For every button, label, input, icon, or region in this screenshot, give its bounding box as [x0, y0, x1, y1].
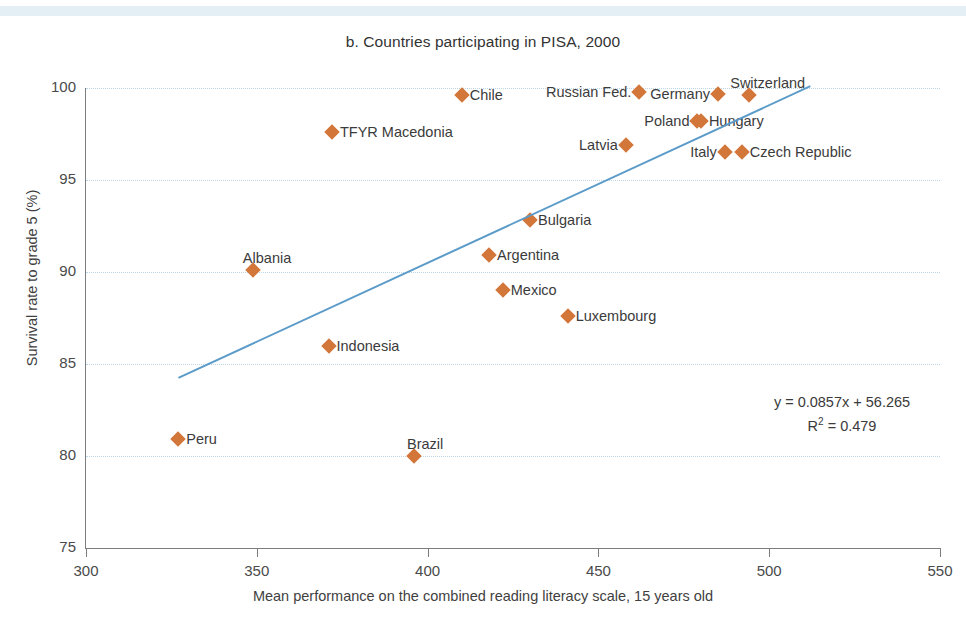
- gridline: [86, 364, 940, 365]
- gridline: [86, 88, 940, 89]
- x-tick-label: 550: [910, 562, 966, 579]
- data-point: [717, 145, 733, 161]
- y-tick-label: 75: [30, 538, 76, 555]
- data-point-label: Italy: [690, 145, 717, 160]
- data-point: [618, 137, 634, 153]
- data-point: [324, 124, 340, 140]
- gridline: [86, 272, 940, 273]
- x-axis-label: Mean performance on the combined reading…: [0, 588, 966, 604]
- data-point: [454, 88, 470, 104]
- x-tick-label: 450: [568, 562, 628, 579]
- data-point: [734, 145, 750, 161]
- regression-annotation: y = 0.0857x + 56.265 R2 = 0.479: [742, 392, 942, 437]
- x-tick-mark: [598, 548, 599, 557]
- y-axis-label: Survival rate to grade 5 (%): [24, 78, 40, 478]
- x-tick-mark: [86, 548, 87, 557]
- data-point-label: Indonesia: [337, 338, 400, 353]
- chart-figure: b. Countries participating in PISA, 2000…: [0, 0, 966, 624]
- data-point-label: Switzerland: [730, 76, 805, 91]
- x-axis-line: [85, 548, 940, 549]
- x-tick-mark: [257, 548, 258, 557]
- x-tick-label: 500: [739, 562, 799, 579]
- r-squared-number: = 0.479: [824, 418, 877, 434]
- data-point-label: Luxembourg: [576, 309, 657, 324]
- x-tick-mark: [428, 548, 429, 557]
- x-tick-label: 400: [398, 562, 458, 579]
- page-title: b. Countries participating in PISA, 2000: [0, 33, 966, 51]
- gridline: [86, 180, 940, 181]
- data-point-label: Brazil: [407, 437, 443, 452]
- data-point-label: Germany: [650, 86, 710, 101]
- x-tick-label: 300: [56, 562, 116, 579]
- data-point-label: TFYR Macedonia: [340, 125, 453, 140]
- x-tick-mark: [769, 548, 770, 557]
- y-axis-line: [85, 88, 86, 549]
- data-point: [481, 248, 497, 264]
- x-tick-label: 350: [227, 562, 287, 579]
- data-point-label: Mexico: [511, 283, 557, 298]
- data-point-label: Albania: [243, 251, 291, 266]
- r-squared-value: R2 = 0.479: [742, 414, 942, 438]
- data-point: [632, 84, 648, 100]
- data-point-label: Czech Republic: [750, 145, 852, 160]
- data-point-label: Poland: [644, 114, 689, 129]
- data-point-label: Bulgaria: [538, 213, 591, 228]
- data-point: [321, 338, 337, 354]
- data-point: [170, 432, 186, 448]
- data-point-label: Chile: [470, 88, 503, 103]
- r-squared-prefix: R: [808, 418, 818, 434]
- trend-line: [178, 85, 811, 379]
- data-point-label: Latvia: [579, 138, 618, 153]
- data-point-label: Argentina: [497, 248, 559, 263]
- data-point-label: Russian Fed.: [546, 84, 631, 99]
- data-point: [560, 308, 576, 324]
- gridline: [86, 456, 940, 457]
- data-point: [495, 283, 511, 299]
- regression-equation: y = 0.0857x + 56.265: [742, 392, 942, 414]
- data-point-label: Peru: [186, 432, 217, 447]
- x-tick-mark: [940, 548, 941, 557]
